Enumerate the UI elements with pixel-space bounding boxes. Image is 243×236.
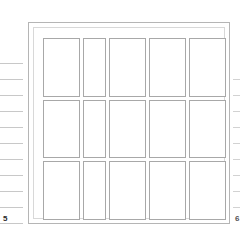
left-ruler-tick — [0, 63, 23, 64]
grid-card[interactable] — [83, 100, 106, 159]
right-ruler-tick — [233, 191, 240, 192]
left-ruler-tick — [0, 207, 23, 208]
left-ruler-tick — [0, 95, 23, 96]
right-ruler-tick — [233, 207, 240, 208]
left-ruler-tick — [0, 159, 23, 160]
page-marker-right: 6 — [235, 214, 239, 223]
grid-card[interactable] — [109, 161, 146, 220]
left-ruler-tick — [0, 79, 23, 80]
grid-card[interactable] — [189, 100, 226, 159]
grid-card[interactable] — [109, 100, 146, 159]
left-ruler-tick — [0, 111, 23, 112]
grid-card[interactable] — [189, 38, 226, 97]
sheet-inner-border — [33, 27, 225, 219]
left-ruler-tick — [0, 191, 23, 192]
grid-card[interactable] — [149, 100, 186, 159]
right-ruler-tick — [233, 95, 240, 96]
left-ruler — [0, 0, 24, 236]
right-ruler-tick — [233, 111, 240, 112]
grid-card[interactable] — [149, 38, 186, 97]
left-ruler-tick — [0, 223, 23, 224]
grid-card[interactable] — [83, 38, 106, 97]
right-ruler-tick — [233, 159, 240, 160]
grid-card[interactable] — [149, 161, 186, 220]
grid-card[interactable] — [83, 161, 106, 220]
grid-card[interactable] — [189, 161, 226, 220]
left-ruler-tick — [0, 175, 23, 176]
right-ruler — [231, 0, 243, 236]
sheet-frame[interactable] — [28, 22, 230, 224]
grid-card[interactable] — [43, 161, 80, 220]
right-ruler-tick — [233, 79, 240, 80]
grid-card[interactable] — [109, 38, 146, 97]
right-ruler-tick — [233, 143, 240, 144]
card-grid — [43, 38, 227, 220]
grid-card[interactable] — [43, 100, 80, 159]
right-ruler-tick — [233, 127, 240, 128]
left-ruler-tick — [0, 127, 23, 128]
right-ruler-tick — [233, 175, 240, 176]
page-marker-left: 5 — [3, 214, 7, 223]
grid-card[interactable] — [43, 38, 80, 97]
left-ruler-tick — [0, 143, 23, 144]
